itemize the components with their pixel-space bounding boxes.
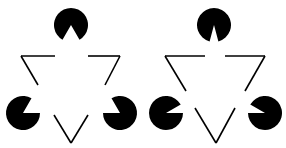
pacman-disc-icon [6,96,40,130]
left-figure [6,8,137,143]
pacman-disc-icon [197,8,231,41]
pacman-disc-icon [54,8,88,40]
pacman-disc-icon [248,96,282,130]
outline-segment [21,56,38,85]
pacman-disc-icon [103,96,137,130]
outline-segment [216,108,235,143]
outline-segment [105,56,120,85]
outline-segment [54,115,71,143]
right-figure [149,8,282,143]
outline-segment [71,115,88,143]
outline-segment [195,108,216,143]
pacman-disc-icon [149,96,183,130]
outline-segment [245,56,265,91]
outline-segment [165,56,186,91]
kanizsa-canvas [0,0,286,148]
